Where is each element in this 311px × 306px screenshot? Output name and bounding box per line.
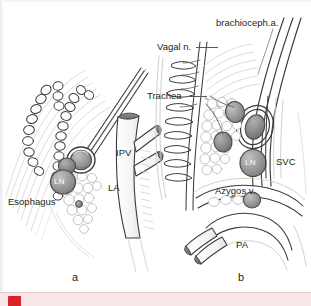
label-inferior-pulmonary-vein: IPV	[116, 148, 131, 158]
leader-line-trachea	[187, 96, 207, 97]
figure-page: Esophagus LN LA IPV a brachioceph.a. Vag…	[0, 0, 311, 306]
label-azygos-vein: Azygos v.	[215, 186, 255, 196]
caption-band	[0, 292, 311, 306]
leader-line-vagal-nerve	[196, 47, 218, 48]
label-pulmonary-artery: PA	[236, 240, 248, 250]
panel-a-artwork	[6, 68, 163, 272]
label-brachiocephalic-artery: brachioceph.a.	[216, 18, 278, 28]
panel-b-artwork	[156, 18, 306, 270]
red-marker-icon	[8, 296, 28, 306]
label-lymph-node-a: LN	[54, 178, 65, 186]
label-superior-vena-cava: SVC	[276, 157, 296, 167]
figure-area: Esophagus LN LA IPV a brachioceph.a. Vag…	[0, 0, 311, 292]
label-lymph-node-b: LN	[245, 159, 256, 167]
anatomy-illustration	[0, 0, 311, 292]
label-trachea: Trachea	[147, 91, 182, 101]
panel-label-b: b	[238, 272, 244, 283]
label-esophagus: Esophagus	[8, 197, 56, 207]
panel-label-a: a	[72, 272, 78, 283]
label-left-atrium: LA	[108, 183, 120, 193]
label-vagal-nerve: Vagal n.	[157, 42, 191, 52]
